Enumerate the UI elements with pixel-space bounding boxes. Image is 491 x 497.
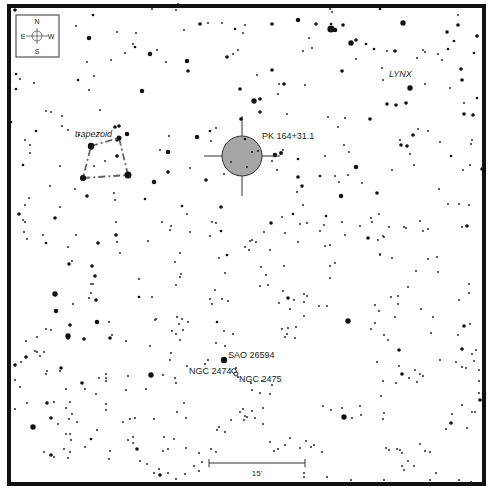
star-dot: [45, 401, 49, 405]
star-dot: [445, 428, 447, 430]
star-dot: [296, 175, 300, 179]
star-dot: [394, 316, 396, 318]
star-dot: [361, 182, 363, 184]
star-dot: [221, 298, 223, 300]
star-dot: [313, 444, 315, 446]
star-dot: [326, 476, 328, 478]
star-dot: [475, 34, 479, 38]
star-dot: [396, 448, 398, 450]
star-dot: [284, 444, 286, 446]
star-dot: [427, 258, 429, 260]
star-dot: [391, 169, 393, 171]
asterism-label: trapezoid: [75, 129, 113, 139]
star-dot: [386, 50, 388, 52]
star-dot: [329, 244, 331, 246]
star-dot: [281, 328, 283, 330]
star-dot: [415, 270, 417, 272]
star-dot: [242, 408, 244, 410]
star-dot: [168, 135, 170, 137]
star-dot: [422, 49, 424, 51]
star-dot: [398, 365, 400, 367]
star-dot: [88, 297, 90, 299]
star-dot: [394, 103, 398, 107]
star-dot: [185, 417, 187, 419]
star-dot: [278, 302, 280, 304]
star-dot: [63, 448, 65, 450]
star-dot: [348, 151, 350, 153]
star-dot: [478, 369, 480, 371]
star-dot: [478, 398, 482, 402]
star-dot: [108, 321, 110, 323]
compass-w: W: [48, 33, 55, 40]
star-dot: [39, 355, 41, 357]
star-dot: [437, 53, 439, 55]
star-dot: [473, 52, 476, 55]
star-dot: [282, 82, 286, 86]
star-dot: [49, 416, 53, 420]
star-dot: [375, 191, 379, 195]
star-dot: [183, 402, 185, 404]
star-dot: [368, 117, 372, 121]
star-dot: [111, 334, 113, 336]
star-dot: [49, 185, 51, 187]
star-dot: [420, 308, 422, 310]
star-dot: [69, 451, 71, 453]
star-dot: [244, 415, 246, 417]
star-dot: [306, 222, 308, 224]
star-dot: [116, 241, 118, 243]
star-dot: [178, 323, 180, 325]
star-dot: [93, 75, 95, 77]
star-dot: [175, 382, 177, 384]
star-dot: [458, 203, 460, 205]
star-dot: [374, 304, 376, 306]
star-dot: [345, 318, 350, 323]
star-dot: [214, 289, 216, 291]
star-dot: [211, 221, 213, 223]
star-dot: [84, 388, 86, 390]
star-dot: [71, 260, 73, 262]
star-dot: [248, 249, 250, 251]
star-dot: [299, 223, 301, 225]
star-dot: [226, 254, 229, 257]
star-dot: [174, 377, 176, 379]
star-dot: [395, 382, 397, 384]
star-dot: [14, 408, 16, 410]
star-dot: [162, 450, 164, 452]
constellation-label: LYNX: [389, 69, 413, 79]
star-dot: [302, 204, 304, 206]
star-dot: [284, 336, 286, 338]
star-dot: [447, 48, 450, 51]
star-dot: [411, 133, 415, 137]
star-dot: [53, 216, 57, 220]
star-dot: [289, 308, 291, 310]
star-dot: [366, 236, 370, 240]
star-dot: [455, 361, 457, 363]
star-dot: [437, 271, 439, 273]
star-dot: [108, 336, 112, 340]
star-dot: [234, 28, 237, 31]
star-dot: [23, 231, 25, 233]
star-dot: [232, 333, 234, 335]
star-dot: [337, 126, 339, 128]
star-dot: [451, 413, 453, 415]
star-dot: [105, 409, 107, 411]
star-dot: [71, 413, 73, 415]
object-ngc-2474[interactable]: NGC 2474: [189, 366, 236, 376]
star-dot: [393, 49, 397, 53]
star-dot: [269, 393, 271, 395]
star-dot: [179, 252, 181, 254]
star-dot: [391, 257, 393, 259]
star-dot: [223, 173, 225, 175]
star-dot: [284, 232, 286, 234]
star-dot: [114, 199, 116, 201]
star-dot: [370, 217, 372, 219]
star-dot: [324, 245, 326, 247]
star-dot: [86, 61, 88, 63]
star-dot: [181, 318, 183, 320]
object-ngc-2475[interactable]: NGC 2475: [234, 372, 282, 384]
compass-n: N: [34, 18, 39, 25]
star-dot: [273, 450, 275, 452]
star-dot: [459, 67, 463, 71]
star-dot: [341, 407, 343, 409]
scale-bar-label: 15': [252, 469, 263, 478]
